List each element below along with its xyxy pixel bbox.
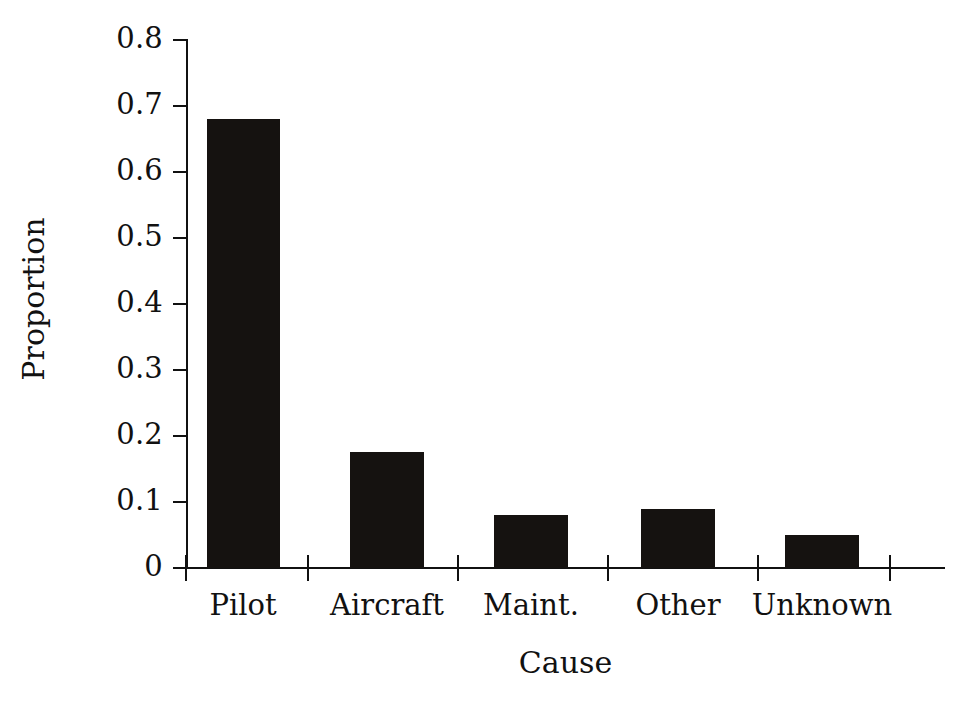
y-axis-tick-label: 0.4 xyxy=(53,288,163,317)
x-axis-tick xyxy=(607,555,609,581)
y-axis-tick xyxy=(173,369,187,371)
x-axis-tick xyxy=(889,555,891,581)
y-axis-tick xyxy=(173,105,187,107)
bar-pilot xyxy=(207,119,280,568)
y-axis-tick-label: 0.3 xyxy=(53,354,163,383)
x-axis-tick xyxy=(457,555,459,581)
x-axis-category-label-pilot: Pilot xyxy=(168,588,318,622)
bar-other xyxy=(641,509,715,568)
y-axis-tick xyxy=(173,303,187,305)
bar-maint xyxy=(494,515,568,568)
x-axis-tick xyxy=(757,555,759,581)
x-axis-tick xyxy=(307,555,309,581)
bar-aircraft xyxy=(350,452,424,568)
y-axis-tick-label: 0.5 xyxy=(53,222,163,251)
y-axis-tick-label: 0.7 xyxy=(53,90,163,119)
x-axis-tick xyxy=(185,555,187,581)
x-axis-category-label-maint: Maint. xyxy=(456,588,606,622)
x-axis-category-label-other: Other xyxy=(603,588,753,622)
y-axis-tick-label: 0 xyxy=(53,552,163,581)
x-axis-title: Cause xyxy=(186,645,945,681)
y-axis-title: Proportion xyxy=(17,199,51,399)
y-axis-tick-label: 0.1 xyxy=(53,486,163,515)
y-axis-tick xyxy=(173,501,187,503)
y-axis-tick-label: 0.8 xyxy=(53,24,163,53)
chart-page: 0.8 0.7 0.6 0.5 0.4 0.3 0.2 0.1 0 xyxy=(0,0,978,719)
y-axis-tick xyxy=(173,171,187,173)
y-axis-tick xyxy=(173,435,187,437)
y-axis-tick-label: 0.6 xyxy=(53,156,163,185)
bar-unknown xyxy=(785,535,859,568)
x-axis-category-label-unknown: Unknown xyxy=(747,588,897,622)
bar-chart-plot-area: 0.8 0.7 0.6 0.5 0.4 0.3 0.2 0.1 0 xyxy=(0,0,978,719)
y-axis-tick xyxy=(173,39,187,41)
x-axis-category-label-aircraft: Aircraft xyxy=(312,588,462,622)
y-axis-tick-label: 0.2 xyxy=(53,420,163,449)
y-axis-tick xyxy=(173,237,187,239)
